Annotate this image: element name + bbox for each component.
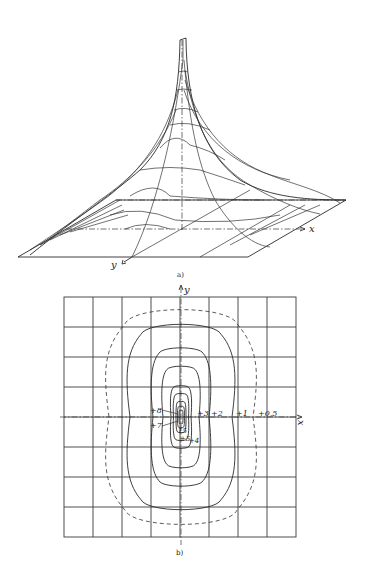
contour-plot-b: +8 +7 15 +5 +4 +3 +2 +1 +0,5 y x b): [60, 284, 307, 557]
peak-tip: [180, 38, 186, 40]
axis-y-label-a: y: [110, 259, 117, 270]
figure-canvas: x y a) +8 +7 15 +5 +4 +3 +2 +1 +0,5 y x …: [0, 0, 365, 570]
contour-label: +2: [211, 409, 223, 418]
contour-label: 15: [178, 427, 187, 435]
surface-plot-a: x y a): [18, 38, 346, 279]
axis-x-label-b: x: [296, 420, 307, 426]
contour-label: +8: [150, 406, 162, 415]
peak-right-edge: [186, 40, 346, 200]
contour-label: +7: [150, 421, 163, 430]
contour-label: +4: [189, 437, 199, 445]
peak-left-edge: [30, 40, 180, 255]
contour-label: +1: [236, 409, 248, 418]
caption-b: b): [176, 549, 183, 557]
axis-y-label-b: y: [183, 284, 190, 295]
y-axis-line-a: [124, 257, 132, 262]
axis-x-label-a: x: [309, 223, 315, 234]
contour-label: +0,5: [258, 409, 277, 418]
contour-label: +3: [197, 409, 209, 418]
caption-a: a): [177, 271, 184, 279]
